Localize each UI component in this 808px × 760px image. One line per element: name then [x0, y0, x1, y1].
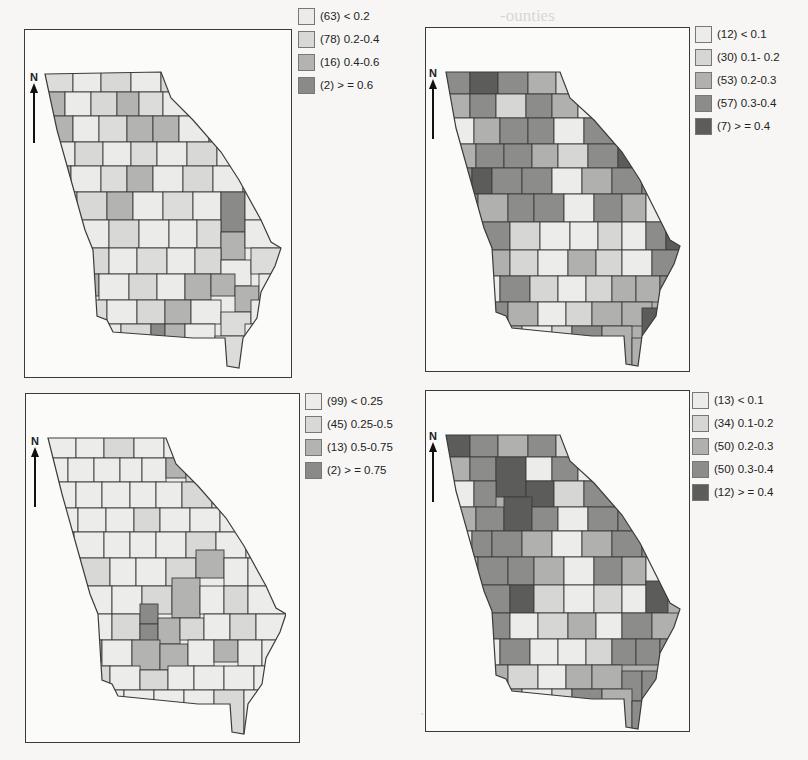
legend-swatch [298, 54, 315, 71]
legend-item: (12) < 0.1 [695, 25, 780, 43]
legend-swatch [298, 8, 315, 25]
georgia-county-map [43, 70, 283, 370]
bleed-through-text: -ounties [500, 6, 555, 26]
legend-item: (7) > = 0.4 [695, 117, 780, 135]
legend-item: (50) 0.2-0.3 [692, 437, 773, 455]
north-label: N [27, 72, 41, 83]
legend-swatch [692, 438, 709, 455]
legend-swatch [305, 393, 322, 410]
georgia-county-map [46, 436, 286, 736]
legend-swatch [305, 439, 322, 456]
legend-item: (13) 0.5-0.75 [305, 438, 393, 456]
north-arrow-icon [429, 442, 437, 452]
legend-item: (53) 0.2-0.3 [695, 71, 780, 89]
georgia-county-map [444, 433, 684, 733]
north-arrow-icon [429, 79, 437, 89]
legend-swatch [305, 462, 322, 479]
legend-swatch [305, 416, 322, 433]
north-label: N [28, 436, 42, 447]
legend-swatch [695, 95, 712, 112]
map-frame: N [25, 393, 300, 743]
legend-swatch [695, 118, 712, 135]
legend-swatch [692, 461, 709, 478]
legend-swatch [692, 484, 709, 501]
legend-item: (57) 0.3-0.4 [695, 94, 780, 112]
legend: (63) < 0.2 (78) 0.2-0.4 (16) 0.4-0.6 (2)… [298, 7, 379, 99]
legend-item: (2) > = 0.6 [298, 76, 379, 94]
legend-swatch [298, 31, 315, 48]
north-arrow: N [28, 436, 42, 507]
legend: (13) < 0.1 (34) 0.1-0.2 (50) 0.2-0.3 (50… [692, 391, 773, 506]
georgia-county-map [444, 70, 684, 370]
legend-item: (63) < 0.2 [298, 7, 379, 25]
legend-item: (50) 0.3-0.4 [692, 460, 773, 478]
map-frame: N [24, 29, 292, 378]
legend-item: (12) > = 0.4 [692, 483, 773, 501]
legend-item: (16) 0.4-0.6 [298, 53, 379, 71]
legend: (12) < 0.1 (30) 0.1- 0.2 (53) 0.2-0.3 (5… [695, 25, 780, 140]
legend-item: (13) < 0.1 [692, 391, 773, 409]
north-arrow: N [426, 68, 440, 139]
legend-swatch [695, 72, 712, 89]
legend-swatch [695, 49, 712, 66]
legend-swatch [695, 26, 712, 43]
legend-swatch [692, 415, 709, 432]
legend-item: (34) 0.1-0.2 [692, 414, 773, 432]
legend: (99) < 0.25 (45) 0.25-0.5 (13) 0.5-0.75 … [305, 392, 393, 484]
north-arrow-icon [30, 83, 38, 93]
north-label: N [426, 68, 440, 79]
map-frame: N [425, 27, 690, 372]
map-frame: N [425, 390, 690, 732]
legend-item: (45) 0.25-0.5 [305, 415, 393, 433]
legend-item: (2) > = 0.75 [305, 461, 393, 479]
legend-item: (78) 0.2-0.4 [298, 30, 379, 48]
north-arrow-icon [31, 447, 39, 457]
legend-item: (30) 0.1- 0.2 [695, 48, 780, 66]
legend-swatch [692, 392, 709, 409]
north-arrow: N [27, 72, 41, 143]
legend-swatch [298, 77, 315, 94]
north-arrow: N [426, 431, 440, 502]
legend-item: (99) < 0.25 [305, 392, 393, 410]
north-label: N [426, 431, 440, 442]
